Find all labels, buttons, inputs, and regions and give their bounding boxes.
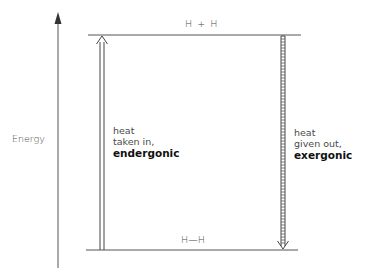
top-level-label: H + H bbox=[185, 18, 218, 29]
exergonic-line-1: heat bbox=[294, 127, 352, 138]
endergonic-line-1: heat bbox=[113, 125, 179, 136]
bottom-level-label: H—H bbox=[181, 234, 205, 245]
endergonic-annotation: heat taken in, endergonic bbox=[113, 125, 179, 159]
exergonic-down-arrow bbox=[278, 36, 289, 249]
up-arrowhead-icon bbox=[97, 36, 108, 44]
axis-arrowhead-icon bbox=[55, 12, 62, 24]
hatch-marks bbox=[281, 39, 285, 243]
exergonic-annotation: heat given out, exergonic bbox=[294, 127, 352, 161]
down-arrowhead-icon bbox=[278, 241, 289, 249]
exergonic-term: exergonic bbox=[294, 149, 352, 161]
exergonic-line-2: given out, bbox=[294, 138, 352, 149]
endergonic-line-2: taken in, bbox=[113, 136, 179, 147]
energy-axis-label: Energy bbox=[12, 133, 45, 144]
endergonic-term: endergonic bbox=[113, 147, 179, 159]
energy-axis bbox=[55, 12, 62, 268]
endergonic-up-arrow bbox=[97, 36, 108, 250]
